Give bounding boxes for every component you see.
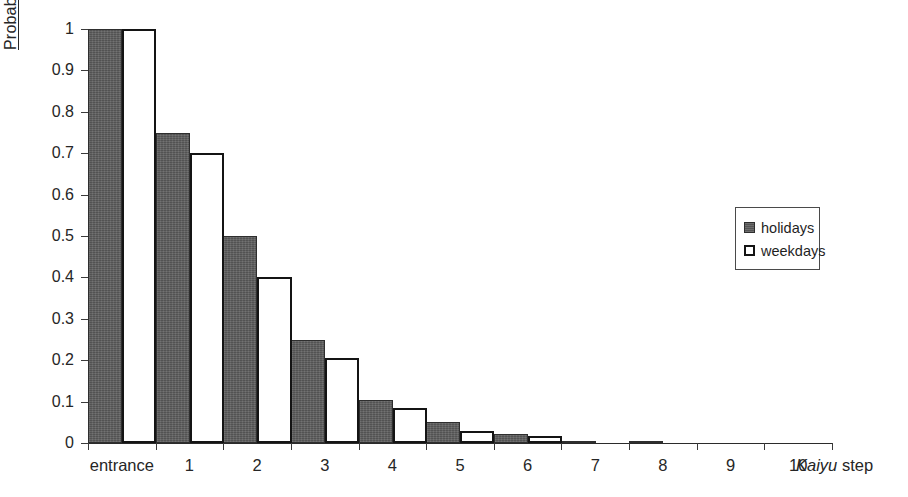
legend-swatch-holidays-icon [744,222,755,233]
y-axis-tick-label: 0.6 [52,187,74,203]
x-axis-tick-mark [629,443,630,450]
x-axis-tick-label: 9 [726,455,735,475]
y-axis-tick-mark [81,29,88,30]
y-axis-tick-label: 0.3 [52,311,74,327]
y-axis-tick-mark [81,402,88,403]
x-axis-tick-label: 3 [320,455,329,475]
x-axis-tick-mark [697,443,698,450]
bar-weekdays-1 [190,153,224,443]
bar-holidays-6 [494,434,528,443]
x-axis-tick-mark [223,443,224,450]
x-axis-tick-mark [764,443,765,450]
plot-area [88,29,832,443]
bar-weekdays-entrance [122,29,156,443]
x-axis-tick-mark [359,443,360,450]
y-axis-tick-mark [81,195,88,196]
y-axis-tick-mark [81,319,88,320]
bar-holidays-1 [156,133,190,444]
y-axis-tick-label: 0.7 [52,145,74,161]
x-axis-title-italic: Kaiyu [796,456,837,474]
x-axis-tick-label: 1 [185,455,194,475]
y-axis-tick-mark [81,153,88,154]
y-axis-tick-label: 0.5 [52,228,74,244]
x-axis-tick-mark [494,443,495,450]
x-axis-tick-label: 6 [523,455,532,475]
x-axis-line [88,443,833,444]
y-axis-tick-mark [81,112,88,113]
y-axis-tick-mark [81,277,88,278]
legend-swatch-weekdays-icon [744,245,755,256]
x-axis-tick-label: 7 [591,455,600,475]
bar-weekdays-3 [325,358,359,443]
x-axis-title-plain: step [842,456,873,474]
x-axis-tick-label: 4 [388,455,397,475]
y-axis-tick-mark [81,236,88,237]
bar-weekdays-6 [528,436,562,443]
y-axis-tick-label: 0.9 [52,62,74,78]
x-axis-tick-mark [561,443,562,450]
legend-item-weekdays: weekdays [744,239,819,262]
x-axis-tick-mark [88,443,89,450]
legend-label-weekdays: weekdays [761,244,825,258]
x-axis-tick-label: 5 [455,455,464,475]
bar-holidays-7 [561,441,595,444]
bar-holidays-entrance [88,29,122,443]
x-axis-tick-mark [156,443,157,450]
x-axis-tick-mark [832,443,833,450]
y-axis-tick-label: 0.4 [52,269,74,285]
y-axis-title: Probability [2,0,20,50]
x-axis-title: Kaiyu step [796,455,873,475]
x-axis-tick-mark [291,443,292,450]
bar-weekdays-4 [393,408,427,443]
x-axis-tick-label: 8 [658,455,667,475]
legend-label-holidays: holidays [761,221,814,235]
bar-weekdays-5 [460,431,494,443]
bar-holidays-2 [223,236,257,443]
y-axis-tick-label: 0 [65,435,74,451]
bar-holidays-3 [291,340,325,444]
legend-item-holidays: holidays [744,216,819,239]
bar-holidays-5 [426,422,460,443]
chart-legend: holidays weekdays [735,207,820,270]
x-axis-tick-label: entrance [90,455,154,475]
bar-holidays-4 [359,400,393,443]
bar-holidays-8 [629,441,663,444]
y-axis-tick-label: 1 [65,21,74,37]
y-axis-tick-mark [81,360,88,361]
y-axis-tick-labels: 10.90.80.70.60.50.40.30.20.10 [28,0,74,497]
y-axis-tick-label: 0.2 [52,352,74,368]
chart-figure: Probability 10.90.80.70.60.50.40.30.20.1… [0,0,908,497]
y-axis-tick-mark [81,70,88,71]
bar-weekdays-2 [257,277,291,443]
x-axis-tick-mark [426,443,427,450]
y-axis-tick-label: 0.1 [52,394,74,410]
x-axis-tick-label: 2 [252,455,261,475]
y-axis-tick-mark [81,443,88,444]
x-axis-tick-labels: entrance12345678910 [0,455,908,485]
y-axis-tick-label: 0.8 [52,104,74,120]
